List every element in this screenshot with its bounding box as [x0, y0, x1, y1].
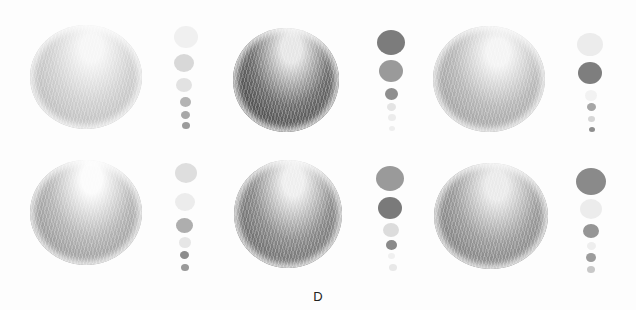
tone-swatch-r2c2-4: [386, 240, 397, 250]
tone-swatch-r2c3-5: [586, 253, 596, 262]
soft-edge: [233, 28, 339, 132]
tone-swatch-r1c2-3: [385, 88, 398, 100]
tone-swatch-r2c2-2: [378, 197, 402, 219]
tone-swatch-r2c2-3: [383, 223, 399, 237]
shaded-sphere-r2c2: [234, 160, 342, 268]
tone-swatch-r1c1-1: [174, 26, 198, 48]
shaded-sphere-r1c1: [30, 25, 142, 129]
tone-swatch-r1c2-2: [379, 60, 403, 82]
tone-swatch-r2c2-6: [389, 264, 397, 271]
tone-swatch-r2c3-1: [576, 168, 606, 195]
tone-swatch-r2c2-5: [388, 253, 395, 259]
tone-swatch-r1c3-3: [585, 90, 597, 101]
tone-swatch-r1c1-2: [174, 54, 194, 72]
tone-swatch-r1c1-4: [180, 97, 191, 107]
tone-swatch-r1c2-6: [389, 126, 395, 131]
tone-swatch-r1c2-5: [388, 114, 396, 121]
shaded-sphere-r1c2: [233, 28, 339, 132]
shaded-sphere-r2c3: [434, 163, 548, 269]
soft-edge: [234, 160, 342, 268]
tone-swatch-r1c2-4: [387, 103, 396, 111]
soft-edge: [434, 163, 548, 269]
tone-swatch-r2c3-2: [580, 199, 602, 219]
tone-swatch-r2c1-4: [179, 237, 191, 248]
tone-swatch-r1c3-4: [587, 103, 596, 111]
soft-edge: [30, 160, 142, 265]
tone-swatch-r1c3-6: [589, 127, 595, 132]
tone-swatch-r2c1-5: [180, 251, 189, 259]
tone-swatch-r1c3-5: [588, 116, 595, 122]
tone-swatch-r1c1-6: [182, 122, 190, 129]
soft-edge: [30, 25, 142, 129]
tone-swatch-r2c3-4: [587, 242, 596, 250]
shaded-sphere-r2c1: [30, 160, 142, 265]
tone-swatch-r1c2-1: [377, 30, 405, 55]
tone-swatch-r2c2-1: [376, 166, 404, 191]
tone-swatch-r2c3-6: [587, 266, 595, 273]
tone-swatch-r1c1-5: [181, 111, 190, 119]
tone-swatch-r2c1-6: [181, 264, 189, 271]
shaded-sphere-r1c3: [433, 26, 545, 132]
tone-swatch-r2c1-2: [175, 193, 195, 211]
tone-swatch-r2c1-3: [176, 218, 193, 233]
drawing-canvas: D: [0, 0, 636, 310]
tone-swatch-r1c3-2: [578, 62, 602, 84]
soft-edge: [433, 26, 545, 132]
tone-swatch-r2c1-1: [175, 163, 197, 183]
tone-swatch-r1c3-1: [577, 33, 603, 56]
figure-label: D: [308, 289, 328, 304]
tone-swatch-r1c1-3: [176, 78, 192, 92]
tone-swatch-r2c3-3: [583, 224, 599, 238]
